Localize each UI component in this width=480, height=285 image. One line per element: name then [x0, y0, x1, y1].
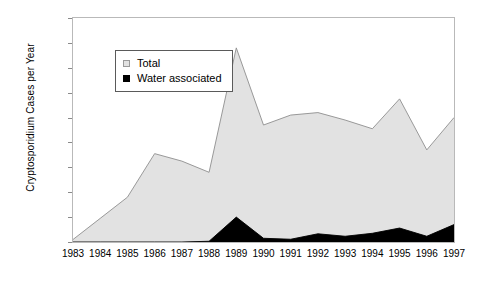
water-associated-swatch-icon: [123, 75, 130, 82]
chart-legend: Total Water associated: [115, 50, 233, 92]
chart-figure: Cryptosporidium Cases per Year 010002000…: [0, 0, 480, 285]
legend-label-water-associated: Water associated: [137, 72, 222, 85]
legend-label-total: Total: [137, 57, 160, 70]
x-axis-tick-label: 1997: [434, 248, 474, 259]
y-axis-title: Cryptosporidium Cases per Year: [25, 0, 36, 238]
legend-item-water-associated: Water associated: [123, 71, 222, 86]
total-swatch-icon: [123, 60, 130, 67]
legend-item-total: Total: [123, 56, 222, 71]
